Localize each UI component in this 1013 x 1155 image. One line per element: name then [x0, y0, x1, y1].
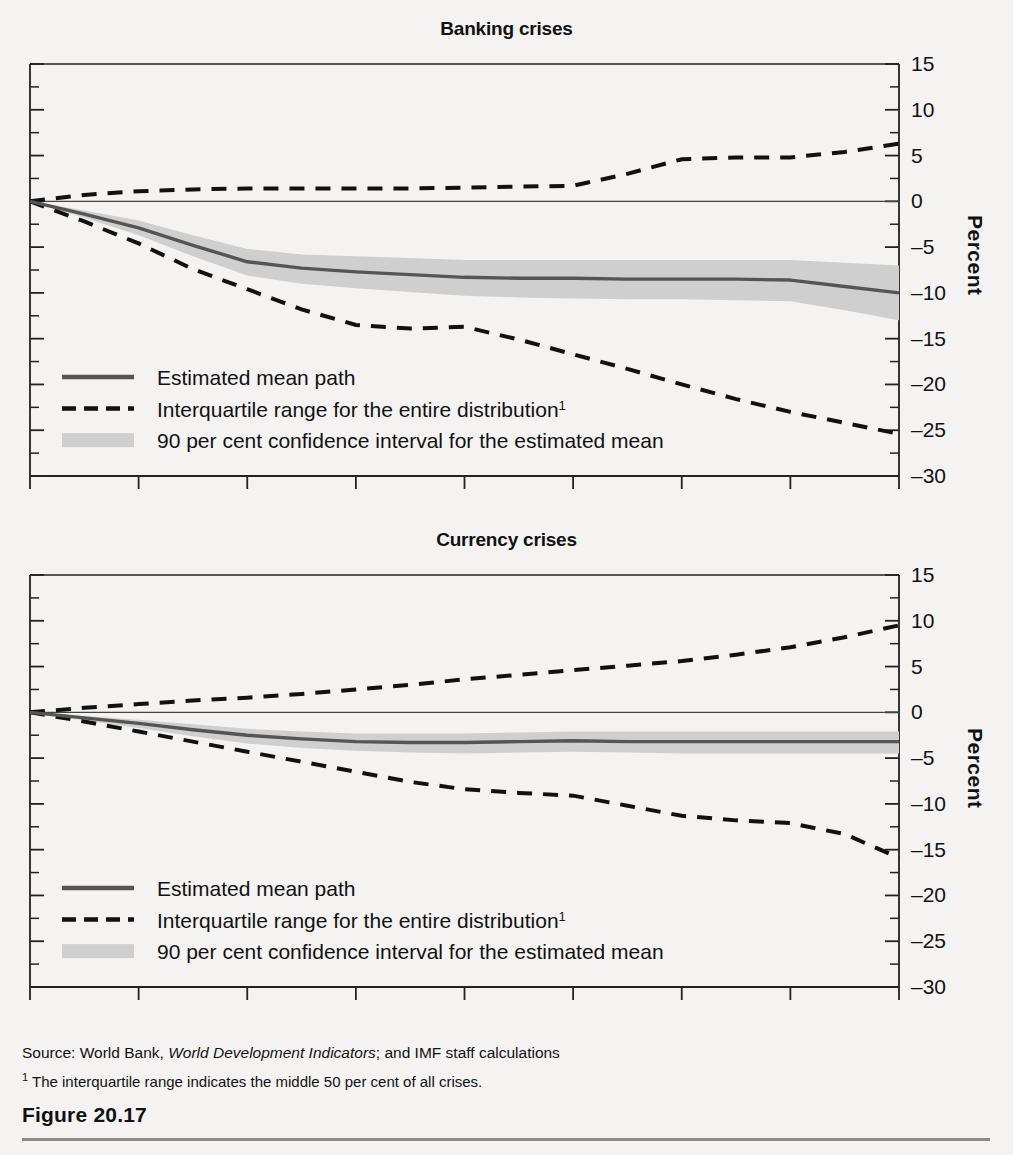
confidence-band [30, 712, 899, 753]
x-axis-ticks: –101234567 [18, 987, 905, 1005]
panel-banking-crises: Banking crises 151050–5–10–15–20–25–30–1… [0, 0, 1013, 512]
chart-svg-banking: 151050–5–10–15–20–25–30–101234567Estimat… [0, 44, 1013, 494]
confidence-band [30, 201, 899, 320]
y-tick-label: –5 [911, 746, 934, 769]
y-tick-label: 10 [911, 98, 934, 121]
y-tick-label: –20 [911, 883, 946, 906]
panel-currency-crises: Currency crises 151050–5–10–15–20–25–30–… [0, 515, 1013, 1027]
y-tick-label: 15 [911, 52, 934, 75]
chart-legend: Estimated mean pathInterquartile range f… [62, 877, 664, 963]
source-line: Source: World Bank, World Development In… [22, 1040, 982, 1065]
caption-divider [22, 1138, 990, 1141]
legend-marker-ci [62, 433, 134, 447]
panel-title-currency: Currency crises [0, 525, 1013, 555]
figure-caption: Figure 20.17 [22, 1103, 147, 1127]
footnote-text: The interquartile range indicates the mi… [28, 1073, 482, 1090]
y-tick-label: –10 [911, 281, 946, 304]
source-block: Source: World Bank, World Development In… [22, 1040, 982, 1094]
y-tick-label: –30 [911, 464, 946, 487]
y-tick-label: –20 [911, 372, 946, 395]
source-publication: World Development Indicators [168, 1044, 376, 1061]
footnote-line: 1 The interquartile range indicates the … [22, 1065, 982, 1094]
figure-container: Banking crises 151050–5–10–15–20–25–30–1… [0, 0, 1013, 1155]
y-tick-label: 5 [911, 144, 923, 167]
quartile-line [30, 625, 899, 712]
legend-label: Estimated mean path [157, 877, 355, 900]
y-tick-label: –25 [911, 929, 946, 952]
y-tick-label: –15 [911, 838, 946, 861]
y-axis-label-currency: Percent [963, 728, 987, 809]
source-suffix: ; and IMF staff calculations [376, 1044, 560, 1061]
y-axis-ticks: 151050–5–10–15–20–25–30 [30, 563, 946, 998]
legend-marker-ci [62, 944, 134, 958]
legend-label: 90 per cent confidence interval for the … [157, 940, 664, 963]
panel-title-banking: Banking crises [0, 14, 1013, 44]
y-tick-label: 0 [911, 189, 923, 212]
y-axis-label-banking: Percent [963, 215, 987, 296]
y-tick-label: 0 [911, 700, 923, 723]
chart-legend: Estimated mean pathInterquartile range f… [62, 366, 664, 452]
legend-label: Estimated mean path [157, 366, 355, 389]
x-axis-ticks: –101234567 [18, 476, 905, 494]
quartile-line [30, 144, 899, 202]
y-tick-label: –25 [911, 418, 946, 441]
plot-area-currency: 151050–5–10–15–20–25–30–101234567Estimat… [0, 555, 1013, 1005]
y-tick-label: 15 [911, 563, 934, 586]
y-tick-label: –5 [911, 235, 934, 258]
legend-label: Interquartile range for the entire distr… [157, 908, 566, 932]
y-tick-label: 5 [911, 655, 923, 678]
legend-label: 90 per cent confidence interval for the … [157, 429, 664, 452]
y-tick-label: –10 [911, 792, 946, 815]
y-tick-label: –30 [911, 975, 946, 998]
chart-svg-currency: 151050–5–10–15–20–25–30–101234567Estimat… [0, 555, 1013, 1005]
source-prefix: Source: World Bank, [22, 1044, 168, 1061]
plot-area-banking: 151050–5–10–15–20–25–30–101234567Estimat… [0, 44, 1013, 494]
y-tick-label: –15 [911, 327, 946, 350]
y-tick-label: 10 [911, 609, 934, 632]
legend-label: Interquartile range for the entire distr… [157, 397, 566, 421]
